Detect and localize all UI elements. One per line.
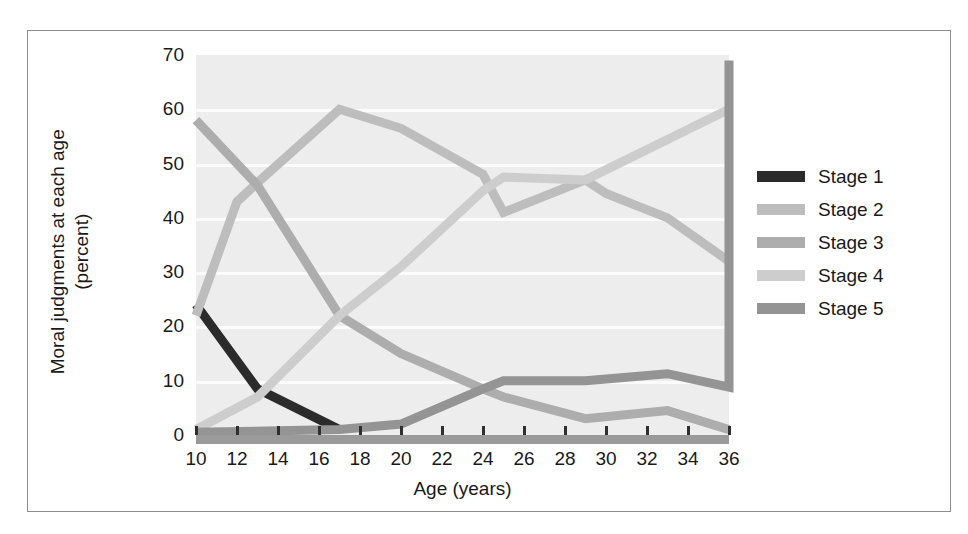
- y-axis-tick-label: 60: [148, 99, 184, 118]
- x-axis-tick: [400, 426, 403, 435]
- y-axis-tick-labels: 010203040506070: [148, 0, 184, 534]
- x-axis-line: [196, 435, 729, 444]
- y-axis-title: Moral judgments at each age (percent): [46, 92, 94, 412]
- x-axis-tick-label: 20: [381, 448, 421, 470]
- x-axis-tick-label: 24: [463, 448, 503, 470]
- x-axis-tick-label: 14: [258, 448, 298, 470]
- legend-label: Stage 2: [818, 199, 884, 221]
- x-axis-tick: [236, 426, 239, 435]
- legend-label: Stage 4: [818, 265, 884, 287]
- legend-item: Stage 4: [757, 259, 947, 292]
- y-axis-tick-label: 10: [148, 371, 184, 390]
- x-axis-tick-label: 32: [627, 448, 667, 470]
- legend-color-swatch: [757, 303, 805, 314]
- legend: Stage 1Stage 2Stage 3Stage 4Stage 5: [757, 160, 947, 325]
- y-axis-tick-label: 20: [148, 316, 184, 335]
- x-axis-tick: [482, 426, 485, 435]
- x-axis-tick-label: 22: [422, 448, 462, 470]
- x-axis-tick: [523, 426, 526, 435]
- y-axis-tick-label: 0: [148, 425, 184, 444]
- x-axis-tick: [564, 426, 567, 435]
- legend-label: Stage 1: [818, 166, 884, 188]
- legend-color-swatch: [757, 237, 805, 248]
- x-axis-tick-label: 26: [504, 448, 544, 470]
- x-axis-tick: [605, 426, 608, 435]
- y-axis-tick-label: 70: [148, 45, 184, 64]
- x-axis-title: Age (years): [196, 478, 729, 500]
- y-axis-tick-label: 30: [148, 262, 184, 281]
- x-axis-tick: [277, 426, 280, 435]
- legend-color-swatch: [757, 204, 805, 215]
- x-axis-tick-label: 16: [299, 448, 339, 470]
- legend-label: Stage 5: [818, 298, 884, 320]
- legend-color-swatch: [757, 270, 805, 281]
- x-axis-tick: [318, 426, 321, 435]
- x-axis-tick: [195, 426, 198, 435]
- x-axis-tick: [359, 426, 362, 435]
- x-axis-tick-label: 36: [709, 448, 749, 470]
- x-axis-tick: [687, 426, 690, 435]
- y-axis-title-line-1: Moral judgments at each age: [46, 92, 70, 412]
- series-line: [196, 305, 340, 430]
- legend-item: Stage 1: [757, 160, 947, 193]
- y-axis-tick-label: 50: [148, 154, 184, 173]
- x-axis-tick-label: 12: [217, 448, 257, 470]
- x-axis-tick-label: 34: [668, 448, 708, 470]
- chart-figure: 1012141618202224262830323436 01020304050…: [0, 0, 968, 534]
- legend-item: Stage 5: [757, 292, 947, 325]
- x-axis-tick-label: 28: [545, 448, 585, 470]
- x-axis-tick: [646, 426, 649, 435]
- series-lines: [196, 55, 729, 435]
- x-axis-tick: [728, 426, 731, 435]
- legend-color-swatch: [757, 171, 805, 182]
- legend-item: Stage 3: [757, 226, 947, 259]
- x-axis-tick: [441, 426, 444, 435]
- plot-area: [196, 55, 729, 435]
- x-axis-tick-label: 18: [340, 448, 380, 470]
- y-axis-title-line-2: (percent): [70, 92, 94, 412]
- y-axis-tick-label: 40: [148, 208, 184, 227]
- legend-item: Stage 2: [757, 193, 947, 226]
- legend-label: Stage 3: [818, 232, 884, 254]
- x-axis-tick-label: 30: [586, 448, 626, 470]
